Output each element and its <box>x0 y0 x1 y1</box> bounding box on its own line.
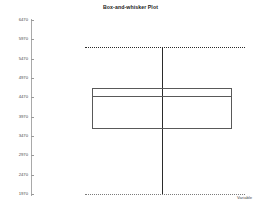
y-axis-tick-label: 5970 <box>4 37 28 41</box>
y-axis-tick <box>31 59 34 60</box>
y-axis-line <box>31 19 32 196</box>
y-axis-tick <box>31 194 34 195</box>
y-axis-tick-label: 1970 <box>4 192 28 196</box>
y-axis-tick <box>31 155 34 156</box>
y-axis-tick <box>31 20 34 21</box>
median-line <box>92 96 232 97</box>
y-axis-tick <box>31 78 34 79</box>
chart-title: Box-and-whisker Plot <box>0 4 261 10</box>
x-axis-label: Variable <box>237 195 252 200</box>
upper-whisker-cap <box>85 47 245 48</box>
y-axis-tick-label: 4470 <box>4 95 28 99</box>
y-axis-tick-label: 2970 <box>4 153 28 157</box>
y-axis-tick <box>31 175 34 176</box>
y-axis-tick-label: 5470 <box>4 57 28 61</box>
y-axis-tick <box>31 39 34 40</box>
y-axis-tick <box>31 136 34 137</box>
y-axis-tick-label: 3470 <box>4 134 28 138</box>
y-axis-tick <box>31 97 34 98</box>
y-axis-tick <box>31 117 34 118</box>
y-axis-tick-label: 4970 <box>4 76 28 80</box>
y-axis-tick-label: 3970 <box>4 115 28 119</box>
y-axis-tick-label: 2470 <box>4 173 28 177</box>
y-axis-tick-label: 6470 <box>4 18 28 22</box>
box-iqr <box>92 88 232 129</box>
lower-whisker-cap <box>85 194 245 195</box>
box-and-whisker-chart: Box-and-whisker Plot 6470597054704970447… <box>0 0 261 210</box>
